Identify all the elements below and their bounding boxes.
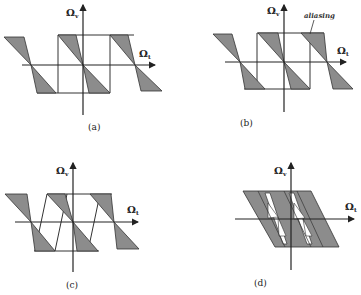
panel-a: Ωv Ωt (a): [4, 5, 162, 132]
aliasing-pointer: [310, 20, 314, 34]
y-axis-label: Ωv: [56, 165, 69, 177]
y-axis-label: Ωv: [267, 5, 280, 17]
caption-d: (d): [254, 278, 267, 288]
panel-b: Ωv Ωt aliasing (b): [213, 5, 353, 128]
aliasing-annotation: aliasing: [304, 11, 335, 20]
x-axis-label: Ωt: [127, 204, 139, 216]
caption-b: (b): [240, 118, 253, 128]
y-axis-label: Ωv: [66, 7, 79, 19]
caption-c: (c): [66, 280, 78, 290]
x-axis-label: Ωt: [337, 45, 349, 57]
caption-a: (a): [88, 122, 100, 132]
spectral-replica-diagram: Ωv Ωt (a) Ωv Ωt aliasing (b): [0, 0, 361, 295]
x-axis-label: Ωt: [139, 48, 151, 60]
panel-d: Ωv Ωt (d): [235, 163, 357, 288]
panel-c: Ωv Ωt (c): [5, 163, 139, 290]
y-axis-label: Ωv: [274, 165, 287, 177]
x-axis-label: Ωt: [345, 201, 357, 213]
